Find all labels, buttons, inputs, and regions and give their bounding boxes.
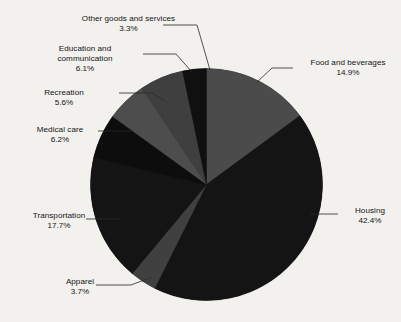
slice-label-text: Medical care [37, 125, 83, 134]
slice-label-food-and-beverages: Food and beverages 14.9% [297, 58, 399, 78]
slice-label-text-line2: communication [30, 54, 140, 64]
slice-label-percent: 5.6% [12, 98, 116, 108]
slice-label-other-goods-and-services: Other goods and services 3.3% [57, 14, 200, 34]
slice-label-education-and-communication: Education and communication 6.1% [30, 44, 140, 75]
slice-label-percent: 3.7% [38, 287, 122, 297]
slice-label-apparel: Apparel 3.7% [38, 277, 122, 297]
slice-label-text: Housing [355, 206, 385, 215]
slice-label-text: Recreation [44, 88, 84, 97]
pie-chart-figure: Other goods and services 3.3% Education … [0, 0, 401, 322]
slice-label-medical-care: Medical care 6.2% [4, 125, 116, 145]
slice-label-percent: 42.4% [341, 216, 399, 226]
leader-line-food [257, 68, 293, 82]
slice-label-text: Apparel [66, 277, 94, 286]
slice-label-recreation: Recreation 5.6% [12, 88, 116, 108]
slice-label-percent: 3.3% [57, 24, 200, 34]
slice-label-percent: 6.2% [4, 135, 116, 145]
slice-label-text: Transportation [33, 211, 86, 220]
leader-line-education [143, 54, 192, 72]
pie-slice-group [90, 69, 322, 301]
slice-label-percent: 14.9% [297, 68, 399, 78]
slice-label-transportation: Transportation 17.7% [2, 211, 116, 231]
slice-label-housing: Housing 42.4% [341, 206, 399, 226]
slice-label-text: Food and beverages [310, 58, 385, 67]
slice-label-text: Other goods and services [82, 14, 175, 23]
slice-label-percent: 17.7% [2, 221, 116, 231]
slice-label-percent: 6.1% [30, 64, 140, 74]
slice-label-text-line1: Education and [59, 44, 111, 53]
